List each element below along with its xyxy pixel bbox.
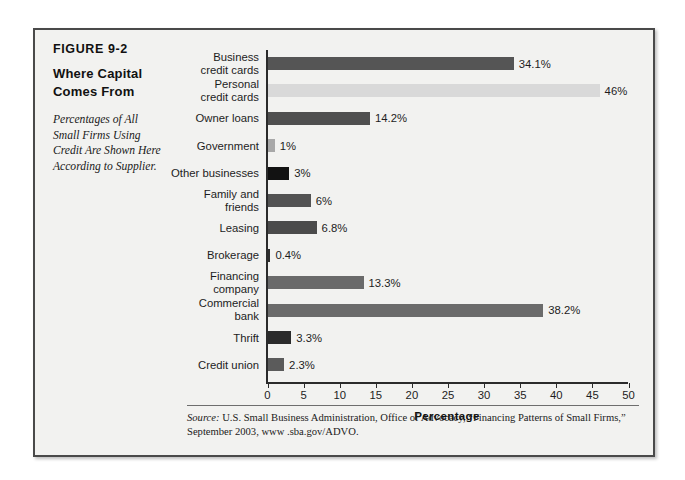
bar-value-label: 3% xyxy=(294,167,310,179)
bar[interactable] xyxy=(268,167,290,180)
x-axis-tick-label: 45 xyxy=(586,389,599,401)
bar[interactable] xyxy=(268,331,292,344)
bar-category-label: Government xyxy=(99,139,259,152)
x-axis-tick-label: 15 xyxy=(370,389,383,401)
bar[interactable] xyxy=(268,221,317,234)
x-axis-tick-mark xyxy=(592,383,593,388)
bar-row: Owner loans14.2% xyxy=(35,105,657,132)
bar-row: Other businesses3% xyxy=(35,160,657,187)
x-axis-tick-mark xyxy=(340,383,341,388)
source-label: Source: xyxy=(187,412,220,423)
x-axis-tick-mark xyxy=(412,383,413,388)
source-text: U.S. Small Business Administration, Offi… xyxy=(187,412,626,437)
bar-category-label: Thrift xyxy=(99,331,259,344)
bar-category-label: Brokerage xyxy=(99,249,259,262)
x-axis-tick-label: 5 xyxy=(300,389,306,401)
source-note: Source: U.S. Small Business Administrati… xyxy=(187,411,639,438)
bar-row: Credit union2.3% xyxy=(35,351,657,378)
bar-category-label: Businesscredit cards xyxy=(99,51,259,77)
x-axis-line xyxy=(266,382,628,384)
bar-value-label: 6% xyxy=(316,195,332,207)
bar-chart-plot-area: Businesscredit cards34.1%Personalcredit … xyxy=(35,30,657,459)
bar-value-label: 46% xyxy=(605,85,628,97)
bar-category-label: Credit union xyxy=(99,358,259,371)
bar[interactable] xyxy=(268,304,544,317)
bar[interactable] xyxy=(268,57,514,70)
x-axis-tick-mark xyxy=(556,383,557,388)
bar-category-label: Family andfriends xyxy=(99,188,259,214)
bar[interactable] xyxy=(268,276,364,289)
x-axis-tick-label: 30 xyxy=(478,389,491,401)
x-axis-tick-mark xyxy=(629,383,630,388)
bar-category-label: Other businesses xyxy=(99,167,259,180)
bar-value-label: 3.3% xyxy=(296,332,322,344)
bar-row: Thrift3.3% xyxy=(35,324,657,351)
x-axis-tick-label: 35 xyxy=(514,389,527,401)
bar-value-label: 2.3% xyxy=(289,359,315,371)
bar-row: Leasing6.8% xyxy=(35,214,657,241)
bar-value-label: 38.2% xyxy=(548,304,580,316)
bar-category-label: Financingcompany xyxy=(99,270,259,296)
x-axis-tick-label: 50 xyxy=(622,389,635,401)
bar-category-label: Commercialbank xyxy=(99,297,259,323)
bar-category-label: Leasing xyxy=(99,221,259,234)
x-axis-tick-label: 10 xyxy=(333,389,346,401)
bar-category-label: Owner loans xyxy=(99,112,259,125)
bar-category-label: Personalcredit cards xyxy=(99,78,259,104)
bar[interactable] xyxy=(268,84,600,97)
x-axis-tick-mark xyxy=(268,383,269,388)
bar-row: Businesscredit cards34.1% xyxy=(35,50,657,77)
bar-row: Brokerage0.4% xyxy=(35,242,657,269)
bar-value-label: 14.2% xyxy=(375,112,407,124)
bar-row: Financingcompany13.3% xyxy=(35,269,657,296)
bar[interactable] xyxy=(268,112,371,125)
bar-value-label: 0.4% xyxy=(275,249,301,261)
bar-row: Personalcredit cards46% xyxy=(35,77,657,104)
x-axis-tick-label: 25 xyxy=(442,389,455,401)
x-axis-tick-mark xyxy=(484,383,485,388)
bar-value-label: 6.8% xyxy=(322,222,348,234)
x-axis-tick-label: 0 xyxy=(264,389,270,401)
bar-value-label: 34.1% xyxy=(519,58,551,70)
x-axis-tick-mark xyxy=(304,383,305,388)
bar[interactable] xyxy=(268,358,285,371)
source-divider xyxy=(187,405,639,406)
x-axis-tick-mark xyxy=(448,383,449,388)
bar-value-label: 13.3% xyxy=(369,277,401,289)
bar[interactable] xyxy=(268,194,311,207)
bar[interactable] xyxy=(268,249,271,262)
bar-value-label: 1% xyxy=(280,140,296,152)
figure-frame: FIGURE 9-2 Where Capital Comes From Perc… xyxy=(33,28,655,457)
bar-row: Commercialbank38.2% xyxy=(35,297,657,324)
bar-row: Family andfriends6% xyxy=(35,187,657,214)
x-axis-tick-mark xyxy=(520,383,521,388)
x-axis-tick-label: 40 xyxy=(550,389,563,401)
x-axis-tick-mark xyxy=(376,383,377,388)
bar[interactable] xyxy=(268,139,275,152)
bar-row: Government1% xyxy=(35,132,657,159)
x-axis-tick-label: 20 xyxy=(406,389,419,401)
